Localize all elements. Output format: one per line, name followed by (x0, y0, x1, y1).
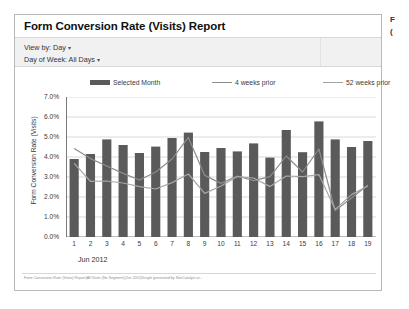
chart-plot-area: Form Conversion Rate (Visits) 0.0%1.0%2.… (15, 97, 381, 257)
bar (363, 141, 372, 237)
y-axis-tick-label: 6.0% (29, 113, 59, 120)
edge-text-line-2: ( (390, 26, 409, 38)
legend-swatch-bar-icon (90, 80, 110, 85)
y-axis-tick-label: 4.0% (29, 153, 59, 160)
bar (314, 121, 323, 237)
controls-divider (320, 38, 321, 66)
view-by-dropdown[interactable]: View by: Day▾ (24, 43, 71, 52)
bar (135, 153, 144, 237)
bar (200, 152, 209, 237)
y-axis-tick-label: 0.0% (29, 233, 59, 240)
day-of-week-dropdown[interactable]: Day of Week: All Days▾ (24, 55, 100, 64)
x-axis-tick-label: 19 (360, 240, 376, 247)
bar (233, 151, 242, 237)
page-title: Form Conversion Rate (Visits) Report (24, 20, 225, 32)
bar (347, 147, 356, 237)
y-axis-tick-label: 5.0% (29, 133, 59, 140)
day-of-week-label: Day of Week: All Days (24, 55, 95, 64)
x-axis-tick-label: 15 (295, 240, 311, 247)
cropped-edge-text: F ( (390, 14, 409, 38)
view-by-label: View by: Day (24, 43, 66, 52)
report-footer: Form Conversion Rate (Visits) Report|All… (24, 276, 372, 280)
x-axis-tick-label: 7 (164, 240, 180, 247)
x-axis-tick-label: 16 (311, 240, 327, 247)
bar (119, 145, 128, 237)
legend-item-4-weeks-prior: 4 weeks prior (212, 79, 275, 86)
chevron-down-icon: ▾ (97, 57, 100, 63)
y-axis-tick-label: 7.0% (29, 93, 59, 100)
x-axis-tick-label: 4 (115, 240, 131, 247)
x-axis-tick-label: 17 (327, 240, 343, 247)
report-controls-strip: View by: Day▾ Day of Week: All Days▾ (15, 37, 381, 67)
x-axis-tick-label: 3 (99, 240, 115, 247)
legend-label: 4 weeks prior (235, 79, 275, 86)
bar (151, 147, 160, 237)
bar (331, 139, 340, 237)
x-axis-tick-label: 2 (82, 240, 98, 247)
x-axis-tick-label: 14 (278, 240, 294, 247)
legend-item-selected-month: Selected Month (90, 79, 160, 86)
x-axis-tick-label: 8 (180, 240, 196, 247)
x-axis-ticks: 12345678910111213141516171819 (66, 240, 376, 252)
y-axis-tick-label: 3.0% (29, 173, 59, 180)
bar (70, 159, 79, 237)
x-axis-tick-label: 18 (344, 240, 360, 247)
bar (249, 143, 258, 237)
bar (265, 158, 274, 237)
report-panel: Form Conversion Rate (Visits) Report Vie… (14, 14, 382, 291)
y-axis-tick-label: 2.0% (29, 193, 59, 200)
legend-label: Selected Month (113, 79, 160, 86)
bar (102, 139, 111, 237)
x-axis-tick-label: 6 (148, 240, 164, 247)
report-title-bar: Form Conversion Rate (Visits) Report (15, 15, 381, 37)
legend-swatch-line-icon (323, 82, 343, 83)
x-axis-tick-label: 13 (262, 240, 278, 247)
bar (167, 138, 176, 237)
chart-legend: Selected Month 4 weeks prior 52 weeks pr… (15, 75, 381, 95)
bar (184, 133, 193, 237)
x-axis-tick-label: 9 (197, 240, 213, 247)
edge-text-line-1: F (390, 14, 409, 26)
x-axis-tick-label: 10 (213, 240, 229, 247)
legend-item-52-weeks-prior: 52 weeks prior (323, 79, 390, 86)
chevron-down-icon: ▾ (68, 45, 71, 51)
legend-label: 52 weeks prior (346, 79, 390, 86)
bar (216, 148, 225, 237)
bar (282, 130, 291, 237)
x-axis-tick-label: 11 (229, 240, 245, 247)
footer-divider (22, 273, 376, 274)
bar (86, 154, 95, 237)
y-axis-tick-label: 1.0% (29, 213, 59, 220)
chart-canvas (66, 97, 376, 237)
legend-swatch-line-icon (212, 82, 232, 83)
x-axis-tick-label: 1 (66, 240, 82, 247)
x-axis-tick-label: 12 (246, 240, 262, 247)
x-axis-tick-label: 5 (131, 240, 147, 247)
bar (298, 152, 307, 237)
x-axis-title: Jun 2012 (78, 255, 108, 264)
screenshot-root: Form Conversion Rate (Visits) Report Vie… (0, 0, 409, 309)
